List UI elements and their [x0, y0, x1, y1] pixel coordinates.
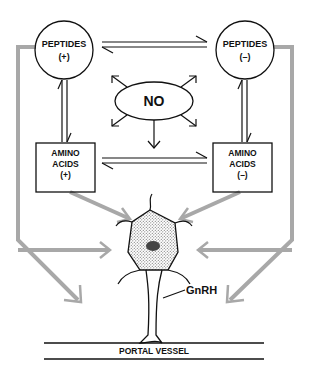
amino-plus-sign: (+) [60, 170, 71, 180]
equilibrium-left-vertical [58, 80, 71, 142]
dendrite-lower-right [168, 270, 190, 284]
peptides-plus-label: PEPTIDES [42, 39, 87, 49]
equilibrium-amino [102, 152, 207, 169]
gnrh-annotation: GnRH [163, 284, 217, 298]
dendrite-lower-left [118, 270, 140, 284]
peptides-minus-sign: (–) [240, 52, 251, 62]
amino-minus-to-neuron [182, 192, 240, 218]
no-radiating-arrows [112, 76, 196, 148]
amino-minus-line1: AMINO [228, 148, 257, 158]
equilibrium-peptides [102, 36, 207, 53]
dendrite-top [150, 194, 152, 210]
neuron-axon [140, 270, 162, 343]
gnrh-label: GnRH [186, 284, 217, 296]
amino-plus-line2: ACIDS [52, 159, 79, 169]
node-peptides-plus: PEPTIDES (+) [35, 21, 93, 79]
portal-vessel-label: PORTAL VESSEL [119, 346, 189, 356]
node-amino-plus: AMINO ACIDS (+) [36, 143, 95, 192]
amino-plus-line1: AMINO [51, 148, 80, 158]
no-label: NO [144, 93, 165, 109]
gnrh-regulation-diagram: PEPTIDES (+) PEPTIDES (–) NO [0, 0, 309, 372]
portal-vessel: PORTAL VESSEL [44, 343, 264, 359]
node-no: NO [115, 82, 193, 120]
amino-plus-to-neuron [70, 192, 128, 218]
neuron-soma [128, 210, 178, 270]
node-amino-minus: AMINO ACIDS (–) [213, 143, 272, 192]
amino-minus-line2: ACIDS [229, 159, 256, 169]
peptides-minus-label: PEPTIDES [223, 39, 268, 49]
amino-minus-sign: (–) [237, 170, 248, 180]
neuron-nucleus [146, 241, 160, 251]
node-peptides-minus: PEPTIDES (–) [216, 21, 274, 79]
peptides-plus-sign: (+) [58, 52, 69, 62]
equilibrium-right-vertical [238, 80, 251, 142]
